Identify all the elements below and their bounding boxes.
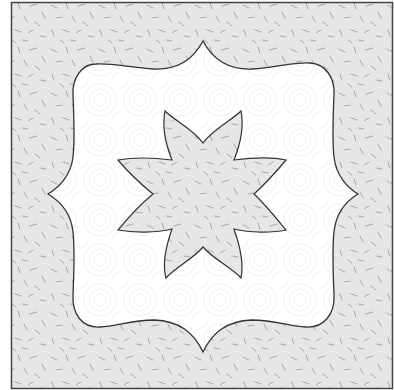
quilt-block: Quilt block: bracket frame with eight-po… bbox=[0, 0, 394, 390]
